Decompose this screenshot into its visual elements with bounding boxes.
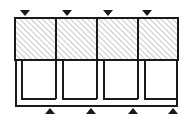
structural-frame-figure: Line elevation of a four-bay two-storey … xyxy=(0,0,193,121)
frame-elevation-drawing xyxy=(0,0,193,121)
upper-hatched-storey xyxy=(15,18,178,60)
